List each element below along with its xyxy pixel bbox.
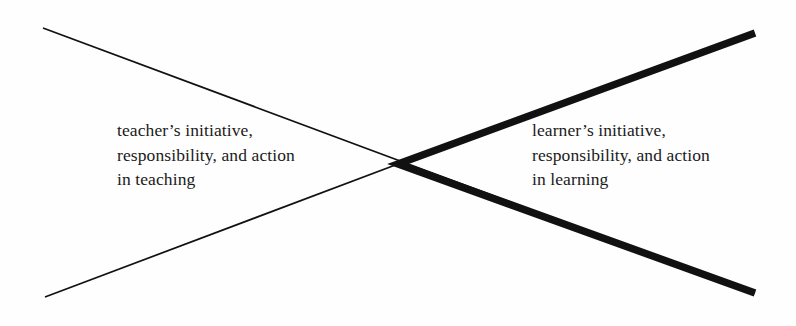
- learner-label-line-2: responsibility, and action: [532, 143, 710, 168]
- diagram-figure: teacher’s initiative, responsibility, an…: [0, 0, 796, 326]
- teacher-label-line-3: in teaching: [117, 167, 295, 192]
- teacher-label-line-1: teacher’s initiative,: [117, 118, 295, 143]
- teacher-initiative-label: teacher’s initiative, responsibility, an…: [117, 118, 295, 192]
- learner-initiative-label: learner’s initiative, responsibility, an…: [532, 118, 710, 192]
- learner-label-line-1: learner’s initiative,: [532, 118, 710, 143]
- learner-label-line-3: in learning: [532, 167, 710, 192]
- teacher-label-line-2: responsibility, and action: [117, 143, 295, 168]
